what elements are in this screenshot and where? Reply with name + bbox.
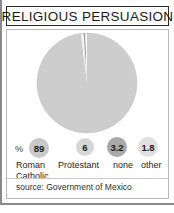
infographic-card: RELIGIOUS PERSUASION % 89 <box>6 3 169 201</box>
title-box: RELIGIOUS PERSUASION <box>6 6 169 26</box>
legend-value-protestant: 6 <box>76 138 94 156</box>
chart-body: % 89 6 3.2 1.8 Roman Catholic Protestant… <box>6 29 169 199</box>
pie-chart <box>35 31 139 135</box>
source-divider <box>7 178 168 179</box>
percent-symbol: % <box>15 144 23 154</box>
frame-left-edge <box>0 0 2 205</box>
frame-bottom-edge <box>0 203 174 205</box>
legend-value-none: 3.2 <box>107 137 127 157</box>
legend: % 89 6 3.2 1.8 Roman Catholic Protestant… <box>7 134 168 176</box>
source-note: source: Government of Mexico <box>16 182 132 192</box>
legend-value-roman-catholic: 89 <box>29 138 49 158</box>
legend-label-protestant: Protestant <box>58 160 99 171</box>
page-title: RELIGIOUS PERSUASION <box>2 9 174 24</box>
legend-value-other: 1.8 <box>138 137 158 157</box>
pie-chart-area <box>7 30 168 134</box>
legend-label-none: none <box>113 160 133 171</box>
legend-label-other: other <box>141 160 162 171</box>
religious-persuasion-infographic: RELIGIOUS PERSUASION % 89 <box>0 0 174 213</box>
